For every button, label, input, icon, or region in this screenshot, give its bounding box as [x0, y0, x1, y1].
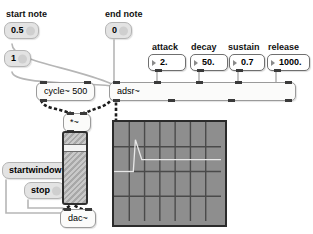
outlet-nub [228, 99, 235, 102]
object-box-multiply-label: *~ [70, 117, 79, 127]
message-box-start-one-label: 1 [11, 53, 16, 63]
number-box-attack-value: 2. [160, 57, 168, 67]
outlet-nub [40, 99, 47, 102]
number-box-triangle-icon [271, 60, 275, 66]
object-box-dac[interactable]: dac~ [60, 209, 96, 228]
inlet-nub [40, 81, 47, 84]
number-box-sustain-value: 0.7 [241, 57, 254, 67]
outlet-nub [236, 69, 243, 72]
graph-envelope-trace [114, 140, 221, 172]
outlet-nub [197, 69, 204, 72]
inlet-nub [285, 81, 292, 84]
inlet-nub [85, 208, 92, 211]
envelope-graph-plot [114, 122, 221, 221]
message-box-stop[interactable]: stop [24, 182, 65, 199]
object-box-adsr-label: adsr~ [117, 86, 140, 96]
outlet-nub [155, 69, 162, 72]
comment-release: release [268, 43, 299, 52]
wire-stop-to-dac [28, 200, 63, 208]
message-box-start-half-label: 0.5 [11, 25, 24, 35]
comment-sustain: sustain [228, 43, 260, 52]
inlet-nub [80, 112, 87, 115]
number-box-release[interactable]: 1000. [267, 54, 310, 71]
pd-patch-canvas[interactable]: start note end note attack decay sustain… [0, 0, 313, 234]
inlet-nub [196, 81, 203, 84]
object-box-cycle-label: cycle~ 500 [44, 86, 87, 96]
outlet-nub [285, 99, 292, 102]
inlet-nub [84, 81, 91, 84]
comment-start-note: start note [6, 10, 47, 19]
object-box-adsr[interactable]: adsr~ [109, 82, 296, 101]
number-box-decay-value: 50. [202, 57, 215, 67]
number-box-decay[interactable]: 50. [190, 54, 228, 71]
object-box-cycle[interactable]: cycle~ 500 [36, 82, 95, 101]
message-box-start-one[interactable]: 1 [4, 50, 31, 67]
outlet-nub [168, 99, 175, 102]
comment-decay: decay [191, 43, 217, 52]
number-box-release-value: 1000. [279, 57, 302, 67]
slider-knob[interactable] [64, 144, 86, 152]
number-box-attack[interactable]: 2. [148, 54, 186, 71]
object-box-multiply[interactable]: *~ [63, 113, 91, 132]
message-box-end-zero[interactable]: 0 [105, 22, 132, 39]
message-box-startwindow-label: startwindow [9, 165, 62, 175]
message-box-start-half[interactable]: 0.5 [4, 22, 39, 39]
object-box-dac-label: dac~ [68, 213, 88, 223]
output-level-slider[interactable] [62, 131, 88, 205]
inlet-nub [235, 81, 242, 84]
number-box-triangle-icon [233, 60, 237, 66]
inlet-nub [154, 81, 161, 84]
outlet-nub [274, 69, 281, 72]
number-box-sustain[interactable]: 0.7 [229, 54, 265, 71]
number-box-triangle-icon [152, 60, 156, 66]
wire-cycle-to-multiply [41, 100, 70, 114]
comment-end-note: end note [105, 10, 143, 19]
envelope-graph[interactable] [112, 120, 227, 227]
message-box-stop-label: stop [31, 185, 50, 195]
inlet-nub [113, 81, 120, 84]
message-box-end-zero-label: 0 [112, 25, 117, 35]
comment-attack: attack [152, 43, 178, 52]
number-box-triangle-icon [194, 60, 198, 66]
inlet-nub [64, 208, 71, 211]
outlet-nub [113, 99, 120, 102]
inlet-nub [67, 112, 74, 115]
